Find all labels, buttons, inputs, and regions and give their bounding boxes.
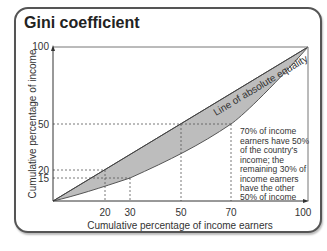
- x-tick-30: 30: [124, 207, 136, 218]
- svg-text:50% of income: 50% of income: [240, 192, 296, 202]
- y-axis-label: Cumulative percentage of income: [27, 49, 38, 198]
- y-tick-15: 15: [38, 173, 50, 184]
- y-tick-50: 50: [38, 119, 50, 130]
- svg-text:remaining 30% of: remaining 30% of: [240, 164, 307, 174]
- svg-text:of the country's: of the country's: [240, 145, 297, 155]
- svg-text:income earners: income earners: [240, 174, 299, 184]
- svg-text:income; the: income; the: [240, 155, 284, 165]
- equality-line-label: Line of absolute equality: [211, 53, 309, 118]
- svg-text:earners have 50%: earners have 50%: [240, 136, 309, 146]
- x-tick-20: 20: [99, 207, 111, 218]
- x-tick-70: 70: [225, 207, 237, 218]
- svg-text:70% of income: 70% of income: [240, 126, 296, 136]
- x-axis-label: Cumulative percentage of income earners: [87, 220, 273, 231]
- x-tick-100: 100: [295, 207, 312, 218]
- gini-chart: 100 50 20 15 20 30 50 70 100 Cumulative …: [0, 0, 327, 251]
- annotation: 70% of income earners have 50% of the co…: [240, 126, 309, 202]
- x-tick-50: 50: [175, 207, 187, 218]
- y-axis-arrow-icon: [51, 45, 55, 51]
